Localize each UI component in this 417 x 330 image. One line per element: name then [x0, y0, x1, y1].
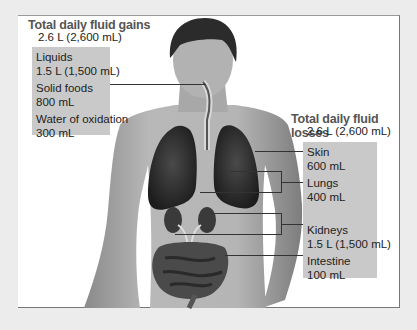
loss-item-skin: Skin 600 mL [307, 145, 345, 173]
intestine-connector-line [225, 255, 303, 256]
kidneys-connector-line [281, 224, 303, 225]
gains-title: Total daily fluid gains [28, 18, 150, 32]
loss-item-intestine: Intestine 100 mL [307, 254, 350, 282]
gains-connector-line [110, 84, 206, 85]
left-kidney [164, 207, 182, 233]
gain-item-oxidation: Water of oxidation 300 mL [36, 112, 128, 140]
lungs-connector-bottom [200, 192, 281, 193]
gains-total: 2.6 L (2,600 mL) [38, 31, 122, 43]
lungs-connector-top [230, 171, 281, 172]
loss-item-kidneys: Kidneys 1.5 L (1,500 mL) [307, 223, 391, 251]
gain-item-liquids: Liquids 1.5 L (1,500 mL) [36, 50, 120, 78]
kidneys-connector-bottom [175, 234, 281, 235]
kidneys-connector-top [210, 213, 281, 214]
loss-item-lungs: Lungs 400 mL [307, 176, 345, 204]
gain-item-solid-foods: Solid foods 800 mL [36, 81, 93, 109]
skin-connector-line [255, 151, 303, 152]
right-kidney [198, 207, 216, 233]
losses-total: 2.6 L (2,600 mL) [307, 125, 391, 137]
lungs-connector-line [281, 182, 303, 183]
